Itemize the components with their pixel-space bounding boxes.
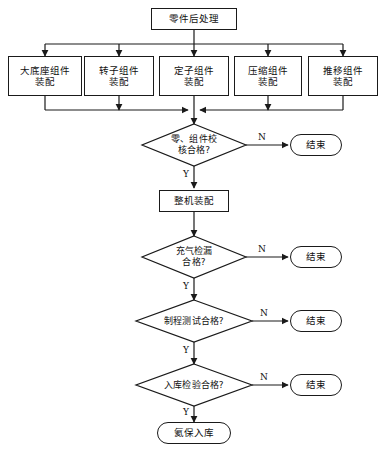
node-end-4[interactable]: 结束	[290, 374, 342, 396]
node-title-process[interactable]: 零件后处理	[151, 8, 237, 30]
node-final-storage[interactable]: 氦保入库	[157, 422, 231, 444]
label-decision-1-yes: Y	[183, 169, 189, 179]
node-process-full-assembly[interactable]: 整机装配	[159, 190, 229, 212]
node-assembly-2[interactable]: 转子组件 装配	[84, 56, 154, 96]
node-assembly-5[interactable]: 推移组件 装配	[308, 56, 378, 96]
decision-3-shape	[136, 300, 252, 342]
decision-2-shape	[142, 236, 246, 278]
node-assembly-3[interactable]: 定子组件 装配	[159, 56, 229, 96]
label-decision-2-no: N	[258, 244, 266, 254]
label-decision-4-no: N	[260, 372, 268, 382]
label-decision-3-no: N	[260, 308, 268, 318]
label-decision-1-no: N	[258, 132, 266, 142]
decision-1-shape	[142, 124, 246, 166]
node-assembly-1[interactable]: 大底座组件 装配	[8, 56, 82, 96]
label-decision-3-yes: Y	[183, 345, 189, 355]
node-end-3[interactable]: 结束	[290, 310, 342, 332]
decision-4-shape	[136, 364, 252, 406]
node-assembly-4[interactable]: 压缩组件 装配	[234, 56, 302, 96]
node-end-1[interactable]: 结束	[290, 134, 342, 156]
label-decision-2-yes: Y	[183, 281, 189, 291]
node-end-2[interactable]: 结束	[290, 246, 342, 268]
label-decision-4-yes: Y	[183, 407, 189, 417]
